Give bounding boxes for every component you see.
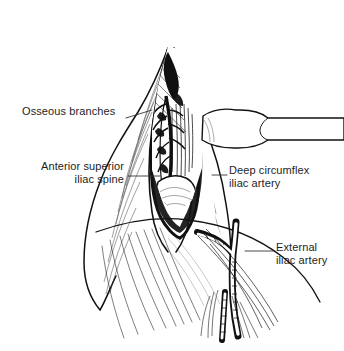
label-deep-circumflex-iliac-artery: Deep circumflex iliac artery bbox=[229, 164, 341, 189]
label-anterior-superior-iliac-spine: Anterior superior iliac spine bbox=[14, 160, 124, 185]
label-osseous-branches: Osseous branches bbox=[22, 105, 115, 118]
retractor-blade bbox=[202, 109, 344, 148]
lower-vessel-branch bbox=[221, 292, 227, 340]
label-external-iliac-artery: External iliac artery bbox=[276, 241, 344, 266]
anatomical-figure: Osseous branches Anterior superior iliac… bbox=[0, 0, 344, 351]
